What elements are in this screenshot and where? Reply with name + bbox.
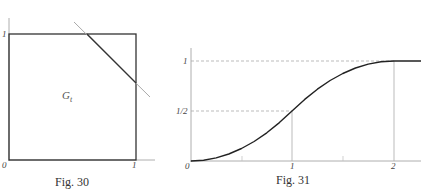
fig-31: 1 1/2 0 1 2 Fig. 31 <box>176 48 421 187</box>
unit-square <box>9 34 136 160</box>
fig30-caption: Fig. 30 <box>55 175 89 189</box>
fig31-y-tick-half: 1/2 <box>176 106 188 116</box>
fig30-x-tick-0: 0 <box>2 160 7 170</box>
fig31-x-tick-0: 0 <box>185 161 190 171</box>
fig31-x-tick-2: 2 <box>391 161 396 171</box>
sigmoid-curve <box>191 61 421 161</box>
region-label-g: Gt <box>62 89 73 104</box>
fig31-caption: Fig. 31 <box>276 173 310 187</box>
diagonal-line <box>87 34 136 83</box>
fig30-x-tick-1: 1 <box>132 160 137 170</box>
fig-30: 1 0 1 Gt Fig. 30 <box>2 18 155 189</box>
fig31-x-tick-1: 1 <box>290 161 295 171</box>
figure-canvas: 1 0 1 Gt Fig. 30 1 1/2 0 1 2 Fig. 31 <box>0 0 421 190</box>
fig30-y-tick-1: 1 <box>2 29 7 39</box>
fig31-y-tick-1: 1 <box>183 56 188 66</box>
